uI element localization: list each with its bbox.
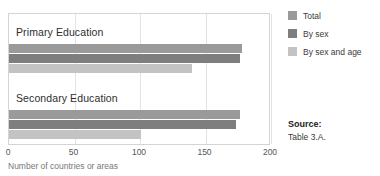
legend-label: By sex and age <box>303 47 362 57</box>
legend-item[interactable]: By sex <box>288 27 378 40</box>
bar-group: Primary Education <box>9 14 269 80</box>
x-axis-title: Number of countries or areas <box>8 161 118 171</box>
category-label: Secondary Education <box>16 92 118 104</box>
bar <box>9 110 240 119</box>
x-tick-label: 0 <box>6 147 11 157</box>
legend-swatch-icon <box>288 11 297 20</box>
legend-label: Total <box>303 11 321 21</box>
source-heading: Source: <box>288 118 378 131</box>
bar <box>9 54 240 63</box>
bar <box>9 130 141 139</box>
plot-area: Primary EducationSecondary Education <box>8 13 270 145</box>
chart-figure: Primary EducationSecondary Education 050… <box>0 0 380 176</box>
legend-label: By sex <box>303 29 329 39</box>
source-block: Source: Table 3.A. <box>288 118 378 144</box>
x-tick-label: 50 <box>69 147 78 157</box>
gridline <box>271 14 272 144</box>
legend-swatch-icon <box>288 47 297 56</box>
x-axis: 050100150200 <box>8 145 270 159</box>
bar <box>9 120 236 129</box>
x-tick-label: 150 <box>197 147 211 157</box>
bar <box>9 64 192 73</box>
legend-item[interactable]: Total <box>288 9 378 22</box>
chart-legend: TotalBy sexBy sex and age <box>288 9 378 63</box>
bar <box>9 44 242 53</box>
legend-item[interactable]: By sex and age <box>288 45 378 58</box>
source-reference: Table 3.A. <box>288 131 378 144</box>
category-label: Primary Education <box>16 26 103 38</box>
x-tick-label: 200 <box>263 147 277 157</box>
x-tick-label: 100 <box>132 147 146 157</box>
bar-group: Secondary Education <box>9 80 269 146</box>
legend-swatch-icon <box>288 29 297 38</box>
